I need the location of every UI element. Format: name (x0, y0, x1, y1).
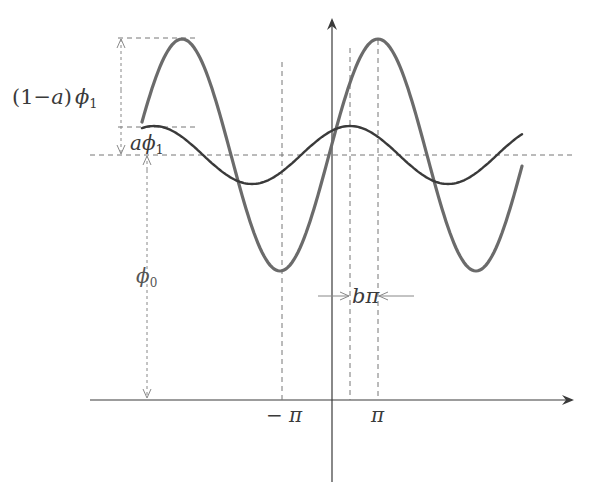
baseline-label: ϕ0 (136, 264, 157, 290)
dimension-arrows (121, 39, 147, 398)
diagram-svg: (1−a)ϕ1 aϕ1 ϕ0 bπ − π π (0, 0, 595, 498)
wave-diagram: (1−a)ϕ1 aϕ1 ϕ0 bπ − π π (0, 0, 595, 498)
tick-label-pi: π (370, 403, 385, 427)
amp-small-label: aϕ1 (130, 131, 164, 157)
phase-shift-label: bπ (352, 284, 380, 308)
amp-large-label: (1−a)ϕ1 (12, 85, 98, 111)
tick-label-neg-pi: − π (266, 403, 303, 427)
